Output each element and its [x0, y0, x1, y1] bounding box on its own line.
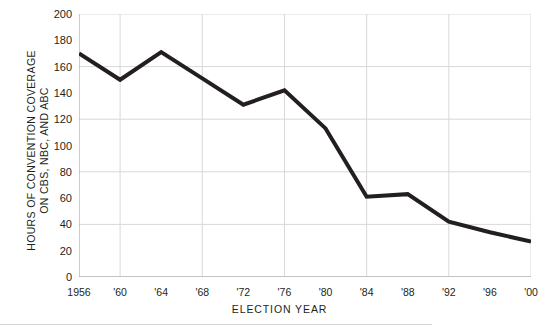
x-tick-label: '80 — [319, 286, 333, 298]
footer-divider — [0, 324, 432, 325]
x-axis-title: ELECTION YEAR — [0, 303, 559, 315]
data-line — [79, 52, 531, 241]
y-tick-label: 20 — [60, 245, 72, 257]
x-tick-label: '88 — [401, 286, 415, 298]
y-tick-label: 40 — [60, 218, 72, 230]
x-tick-label: '00 — [524, 286, 538, 298]
y-tick-label: 0 — [66, 271, 72, 283]
x-tick-label: '72 — [237, 286, 251, 298]
x-tick-label: '76 — [278, 286, 292, 298]
y-tick-label: 60 — [60, 192, 72, 204]
x-tick-label: '68 — [195, 286, 209, 298]
y-tick-label: 140 — [54, 87, 72, 99]
y-tick-label: 120 — [54, 113, 72, 125]
y-tick-label: 180 — [54, 34, 72, 46]
x-tick-label: '84 — [360, 286, 374, 298]
bleed-through-text — [44, 0, 334, 4]
x-tick-label: '60 — [113, 286, 127, 298]
x-tick-label: 1956 — [67, 286, 90, 298]
chart-figure: HOURS OF CONVENTION COVERAGE ON CBS, NBC… — [0, 0, 559, 335]
line-chart-svg — [79, 14, 531, 277]
x-tick-label: '64 — [154, 286, 168, 298]
x-tick-label: '96 — [483, 286, 497, 298]
plot-area: 0204060801001201401601802001956'60'64'68… — [79, 14, 531, 277]
y-tick-label: 200 — [54, 8, 72, 20]
y-tick-label: 160 — [54, 61, 72, 73]
y-tick-label: 100 — [54, 140, 72, 152]
x-tick-label: '92 — [442, 286, 456, 298]
y-axis-title: HOURS OF CONVENTION COVERAGE ON CBS, NBC… — [25, 26, 50, 276]
y-tick-label: 80 — [60, 166, 72, 178]
